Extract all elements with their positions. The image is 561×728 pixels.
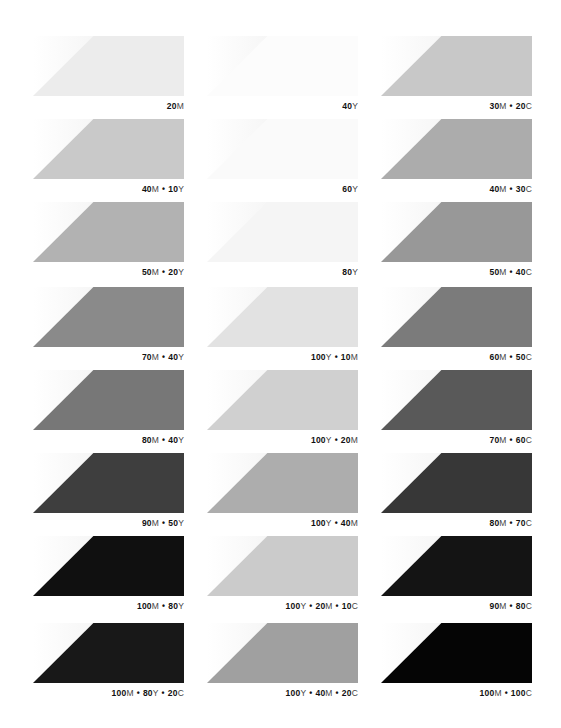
- swatch-fill: [207, 536, 358, 596]
- swatch-label: 40M•30C: [489, 184, 532, 194]
- swatch-label: 70M•60C: [489, 435, 532, 445]
- ink-percent: 50: [142, 267, 152, 277]
- ink-channel: C: [178, 688, 184, 698]
- ink-channel: Y: [326, 435, 332, 445]
- swatch-fill: [207, 453, 358, 513]
- swatch-card: 50M•40C: [381, 202, 532, 282]
- separator-dot: •: [336, 601, 339, 611]
- separator-dot: •: [162, 435, 165, 445]
- ink-channel: Y: [352, 101, 358, 111]
- ink-percent: 100: [311, 435, 326, 445]
- swatch-label: 80M•70C: [489, 518, 532, 528]
- ink-percent: 10: [342, 601, 352, 611]
- ink-channel: M: [499, 518, 506, 528]
- ink-channel: Y: [178, 435, 184, 445]
- ink-percent: 50: [168, 518, 178, 528]
- ink-channel: M: [177, 101, 184, 111]
- ink-channel: M: [152, 184, 159, 194]
- ink-channel: Y: [178, 518, 184, 528]
- color-swatch: [381, 453, 532, 513]
- ink-percent: 100: [480, 688, 495, 698]
- color-swatch: [207, 536, 358, 596]
- separator-dot: •: [335, 352, 338, 362]
- color-swatch: [33, 119, 184, 179]
- ink-percent: 100: [112, 688, 127, 698]
- ink-percent: 50: [516, 352, 526, 362]
- ink-percent: 60: [489, 352, 499, 362]
- separator-dot: •: [162, 184, 165, 194]
- swatch-label: 40M•10Y: [142, 184, 184, 194]
- swatch-card: 90M•80C: [381, 536, 532, 616]
- separator-dot: •: [162, 518, 165, 528]
- color-swatch: [33, 370, 184, 430]
- swatch-card: 100Y•40M•20C: [207, 623, 358, 703]
- swatch-card: 40M•10Y: [33, 119, 184, 199]
- swatch-card: 100Y•40M: [207, 453, 358, 533]
- ink-percent: 30: [489, 101, 499, 111]
- color-swatch: [33, 536, 184, 596]
- separator-dot: •: [335, 435, 338, 445]
- color-swatch: [381, 536, 532, 596]
- ink-channel: M: [494, 688, 501, 698]
- ink-percent: 20: [315, 601, 325, 611]
- color-swatch: [381, 370, 532, 430]
- ink-channel: C: [526, 352, 532, 362]
- ink-channel: Y: [178, 184, 184, 194]
- swatch-fill: [207, 36, 358, 96]
- ink-percent: 90: [489, 601, 499, 611]
- swatch-label: 60M•50C: [489, 352, 532, 362]
- separator-dot: •: [309, 688, 312, 698]
- swatch-label: 50M•40C: [489, 267, 532, 277]
- ink-channel: C: [526, 184, 532, 194]
- ink-percent: 100: [137, 601, 152, 611]
- swatch-fill: [381, 202, 532, 262]
- ink-channel: M: [499, 601, 506, 611]
- swatch-card: 100Y•20M•10C: [207, 536, 358, 616]
- swatch-label: 100Y•40M: [311, 518, 358, 528]
- swatch-fill: [207, 287, 358, 347]
- ink-channel: M: [499, 184, 506, 194]
- swatch-card: 40Y: [207, 36, 358, 116]
- swatch-label: 80Y: [342, 267, 358, 277]
- swatch-fill: [33, 36, 184, 96]
- ink-percent: 70: [516, 518, 526, 528]
- ink-percent: 100: [286, 688, 301, 698]
- separator-dot: •: [162, 352, 165, 362]
- ink-percent: 80: [342, 267, 352, 277]
- swatch-fill: [33, 119, 184, 179]
- color-swatch: [33, 36, 184, 96]
- ink-percent: 20: [516, 101, 526, 111]
- swatch-card: 80M•70C: [381, 453, 532, 533]
- swatch-card: 40M•30C: [381, 119, 532, 199]
- ink-percent: 30: [516, 184, 526, 194]
- color-swatch: [381, 623, 532, 683]
- separator-dot: •: [510, 518, 513, 528]
- ink-channel: Y: [300, 688, 306, 698]
- swatch-fill: [381, 453, 532, 513]
- ink-channel: Y: [153, 688, 159, 698]
- ink-percent: 50: [489, 267, 499, 277]
- ink-percent: 40: [341, 518, 351, 528]
- ink-percent: 100: [511, 688, 526, 698]
- swatch-card: 20M: [33, 36, 184, 116]
- swatch-card: 100M•80Y: [33, 536, 184, 616]
- ink-channel: M: [152, 267, 159, 277]
- ink-percent: 40: [168, 435, 178, 445]
- ink-channel: C: [526, 688, 532, 698]
- ink-percent: 20: [167, 101, 177, 111]
- color-swatch: [33, 287, 184, 347]
- swatch-card: 70M•60C: [381, 370, 532, 450]
- swatch-fill: [207, 202, 358, 262]
- color-swatch: [33, 453, 184, 513]
- swatch-card: 90M•50Y: [33, 453, 184, 533]
- ink-percent: 40: [342, 101, 352, 111]
- color-swatch: [381, 119, 532, 179]
- ink-channel: Y: [178, 601, 184, 611]
- ink-channel: M: [499, 267, 506, 277]
- swatch-fill: [207, 623, 358, 683]
- swatch-card: 100M•100C: [381, 623, 532, 703]
- color-swatch: [207, 119, 358, 179]
- separator-dot: •: [510, 601, 513, 611]
- swatch-card: 80M•40Y: [33, 370, 184, 450]
- swatch-label: 60Y: [342, 184, 358, 194]
